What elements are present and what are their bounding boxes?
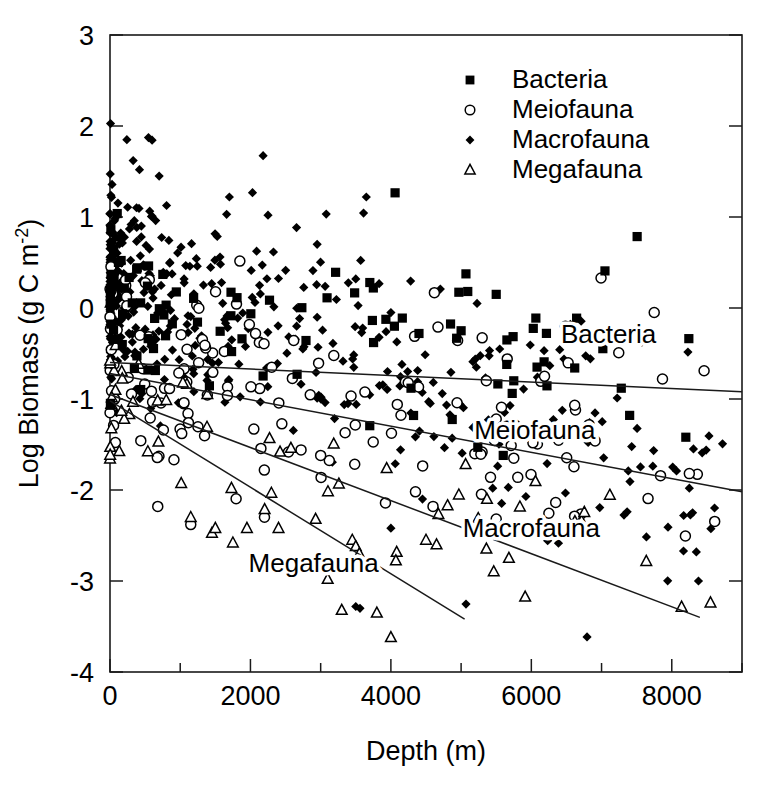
marker-meiofauna: [305, 390, 315, 400]
marker-macrofauna: [519, 384, 528, 393]
marker-bacteria: [124, 273, 133, 282]
marker-bacteria: [350, 288, 359, 297]
marker-meiofauna: [246, 382, 256, 392]
marker-bacteria: [259, 371, 268, 380]
marker-macrofauna: [332, 295, 341, 304]
marker-bacteria: [109, 245, 118, 254]
marker-bacteria: [205, 381, 214, 390]
marker-macrofauna: [129, 156, 138, 165]
marker-macrofauna: [214, 358, 223, 367]
marker-megafauna: [465, 164, 475, 174]
marker-macrofauna: [258, 261, 267, 270]
marker-meiofauna: [259, 339, 269, 349]
marker-bacteria: [246, 309, 255, 318]
marker-macrofauna: [625, 477, 634, 486]
marker-megafauna: [328, 438, 339, 448]
marker-meiofauna: [569, 462, 579, 472]
marker-macrofauna: [155, 171, 164, 180]
marker-macrofauna: [356, 256, 365, 265]
marker-meiofauna: [177, 429, 187, 439]
marker-megafauna: [336, 604, 347, 614]
marker-macrofauna: [168, 345, 177, 354]
marker-macrofauna: [263, 328, 272, 337]
marker-macrofauna: [679, 546, 688, 555]
marker-macrofauna: [206, 263, 215, 272]
marker-macrofauna: [636, 462, 645, 471]
marker-macrofauna: [710, 503, 719, 512]
y-axis-title-superscript: -2: [12, 228, 32, 244]
marker-bacteria: [454, 288, 463, 297]
marker-meiofauna: [244, 320, 254, 330]
marker-macrofauna: [446, 368, 455, 377]
marker-macrofauna: [679, 511, 688, 520]
marker-bacteria: [143, 282, 152, 291]
marker-bacteria: [143, 365, 152, 374]
marker-macrofauna: [458, 449, 467, 458]
marker-meiofauna: [249, 424, 259, 434]
marker-meiofauna: [570, 400, 580, 410]
legend-label: Bacteria: [512, 64, 608, 94]
marker-meiofauna: [368, 437, 378, 447]
marker-megafauna: [641, 555, 652, 565]
marker-macrofauna: [162, 201, 171, 210]
marker-macrofauna: [175, 355, 184, 364]
marker-bacteria: [502, 360, 511, 369]
marker-megafauna: [460, 459, 471, 469]
series-label-megafauna: Megafauna: [249, 548, 380, 578]
biomass-depth-figure: 02000400060008000-4-3-2-10123 BacteriaBa…: [0, 0, 766, 805]
marker-meiofauna: [452, 398, 462, 408]
marker-macrofauna: [262, 274, 271, 283]
marker-bacteria: [301, 336, 310, 345]
marker-macrofauna: [193, 262, 202, 271]
marker-macrofauna: [292, 223, 301, 232]
marker-macrofauna: [318, 326, 327, 335]
marker-bacteria: [106, 270, 115, 279]
marker-macrofauna: [663, 523, 672, 532]
marker-macrofauna: [313, 343, 322, 352]
marker-megafauna: [520, 591, 531, 601]
marker-macrofauna: [406, 276, 415, 285]
marker-macrofauna: [312, 280, 321, 289]
marker-macrofauna: [354, 301, 363, 310]
marker-bacteria: [322, 293, 331, 302]
y-tick-label: 2: [79, 112, 94, 142]
marker-megafauna: [372, 607, 383, 617]
legend-item-meiofauna: Meiofauna: [465, 94, 634, 124]
marker-bacteria: [617, 384, 626, 393]
marker-macrofauna: [263, 211, 272, 220]
marker-macrofauna: [349, 363, 358, 372]
marker-meiofauna: [429, 288, 439, 298]
marker-bacteria: [542, 329, 551, 338]
marker-meiofauna: [710, 516, 720, 526]
marker-macrofauna: [313, 240, 322, 249]
marker-meiofauna: [296, 445, 306, 455]
marker-bacteria: [232, 293, 241, 302]
marker-macrofauna: [642, 532, 651, 541]
marker-macrofauna: [718, 439, 727, 448]
marker-macrofauna: [328, 339, 337, 348]
marker-macrofauna: [392, 337, 401, 346]
marker-macrofauna: [292, 322, 301, 331]
marker-meiofauna: [316, 450, 326, 460]
marker-macrofauna: [599, 453, 608, 462]
marker-bacteria: [331, 268, 340, 277]
marker-bacteria: [216, 327, 225, 336]
marker-megafauna: [705, 597, 716, 607]
marker-meiofauna: [350, 459, 360, 469]
marker-bacteria: [172, 287, 181, 296]
marker-bacteria: [457, 326, 466, 335]
marker-macrofauna: [289, 426, 298, 435]
marker-megafauna: [323, 486, 334, 496]
legend-label: Macrofauna: [512, 124, 650, 154]
marker-meiofauna: [251, 329, 261, 339]
marker-macrofauna: [495, 344, 504, 353]
marker-meiofauna: [350, 420, 360, 430]
marker-macrofauna: [689, 444, 698, 453]
marker-megafauna: [242, 522, 253, 532]
marker-macrofauna: [106, 169, 115, 178]
marker-meiofauna: [684, 469, 694, 479]
marker-macrofauna: [295, 314, 304, 323]
marker-bacteria: [625, 411, 634, 420]
marker-meiofauna: [182, 344, 192, 354]
marker-meiofauna: [169, 455, 179, 465]
